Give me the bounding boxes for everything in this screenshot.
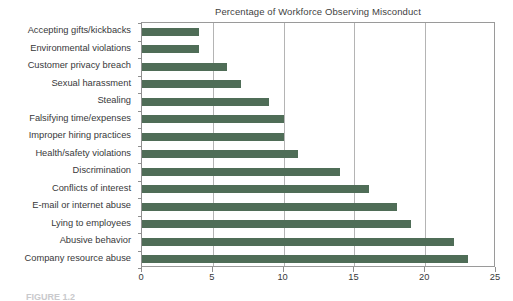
bar [142,168,340,176]
bar [142,133,284,141]
y-axis-label: Improper hiring practices [29,130,131,141]
bar [142,45,199,53]
y-axis-tick [138,111,142,112]
chart-title: Percentage of Workforce Observing Miscon… [141,6,495,17]
y-axis-tick [138,251,142,252]
figure-container: Percentage of Workforce Observing Miscon… [0,0,513,301]
bar [142,255,468,263]
y-axis-label: Health/safety violations [35,148,131,159]
y-axis-tick [138,216,142,217]
y-axis-label: Environmental violations [30,43,131,54]
y-axis-tick [138,181,142,182]
y-axis-tick [138,233,142,234]
bar [142,115,284,123]
x-axis-label: 5 [209,272,214,282]
y-axis-tick [138,163,142,164]
x-axis-label: 10 [277,272,287,282]
y-axis-label: Sexual harassment [51,78,131,89]
y-axis-tick [138,198,142,199]
bar [142,150,298,158]
y-axis-label: E-mail or internet abuse [32,200,131,211]
y-axis-label: Falsifying time/expenses [29,113,131,124]
bar [142,80,241,88]
y-axis-label: Discrimination [73,165,131,176]
y-axis-tick [138,58,142,59]
bar [142,63,227,71]
x-axis-label: 20 [419,272,429,282]
gridline-25 [496,23,497,266]
y-axis-label: Lying to employees [51,218,131,229]
x-axis-label: 15 [348,272,358,282]
bar [142,98,269,106]
y-axis-label: Accepting gifts/kickbacks [28,25,131,36]
x-axis-label: 0 [138,272,143,282]
x-axis-label: 25 [490,272,500,282]
y-axis-tick [138,146,142,147]
figure-caption: FIGURE 1.2 [26,292,75,301]
y-axis-tick [138,128,142,129]
x-axis-labels: 0510152025 [141,272,495,286]
y-axis-label: Abusive behavior [60,235,131,246]
y-axis-tick [138,23,142,24]
bar [142,220,411,228]
plot-area [141,22,495,267]
bar-series [142,23,494,266]
y-axis-labels: Accepting gifts/kickbacksEnvironmental v… [0,22,136,267]
y-axis-label: Stealing [97,95,131,106]
bar [142,203,397,211]
bar [142,28,199,36]
y-axis-tick [138,41,142,42]
bar [142,238,454,246]
y-axis-label: Customer privacy breach [28,60,131,71]
y-axis-label: Conflicts of interest [52,183,131,194]
y-axis-label: Company resource abuse [25,253,131,264]
bar [142,185,369,193]
y-axis-tick [138,93,142,94]
y-axis-tick [138,76,142,77]
